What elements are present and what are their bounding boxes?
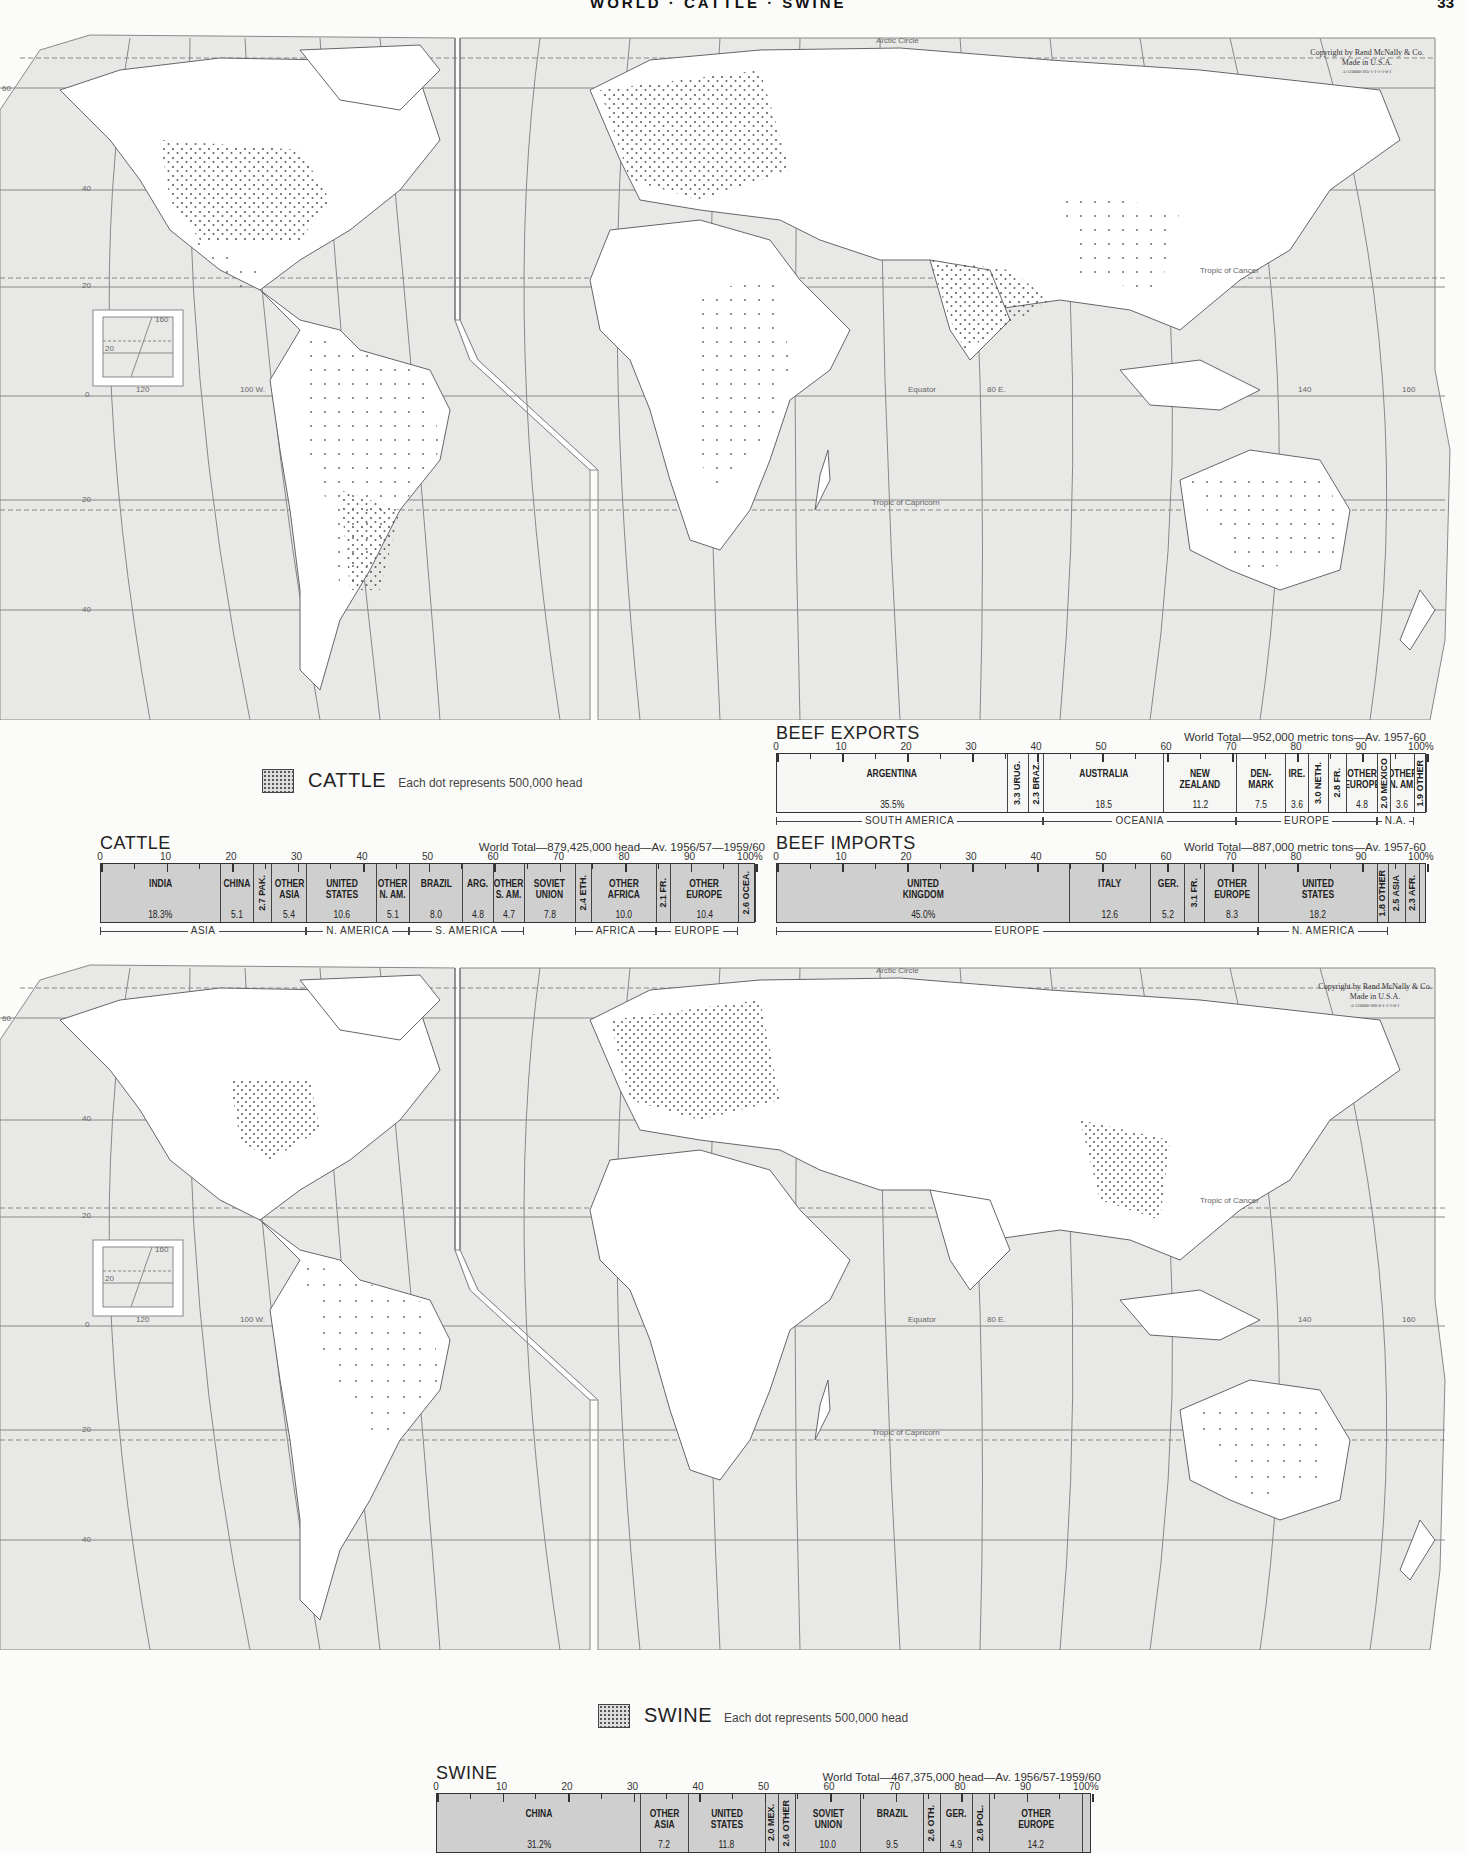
axis-tick-label: 90 (1355, 851, 1366, 862)
axis-tick-label: 0 (773, 851, 779, 862)
region-bracket: OCEANIA (1043, 815, 1236, 827)
axis-tick (699, 1794, 701, 1802)
axis-tick (765, 1794, 767, 1802)
segment-value: 12.6 (1102, 909, 1119, 920)
segment-label: OTHER N. AM. (378, 878, 408, 900)
bar-segment: 2.8 FR.2.8 (1329, 754, 1347, 812)
bar-segment: SOVIET UNION7.8 (525, 864, 576, 922)
axis-tick (1362, 754, 1364, 762)
axis-tick-label: 70 (889, 1781, 900, 1792)
region-bracket: S. AMERICA (409, 925, 524, 937)
inset-20-label: 20 (105, 344, 114, 353)
axis-tick (1135, 754, 1136, 759)
axis-tick-label: 60 (823, 1781, 834, 1792)
cattle-legend: CATTLE Each dot represents 500,000 head (262, 769, 582, 793)
segment-value: 5.4 (283, 909, 295, 920)
axis-tick-label: 50 (1095, 741, 1106, 752)
axis-tick (1395, 754, 1396, 759)
axis-tick (797, 1794, 798, 1799)
bar-segment: CHINA31.2% (437, 1794, 641, 1852)
axis-tick-label: 80 (1290, 851, 1301, 862)
axis-tick (1265, 864, 1266, 869)
lat-60-label: 60 (2, 84, 11, 93)
chart-axis: 0102030405060708090100% (100, 851, 755, 863)
axis-tick-label: 90 (1020, 1781, 1031, 1792)
segment-value: 4.9 (950, 1839, 962, 1850)
axis-tick (1037, 864, 1039, 872)
segment-value: 45.0% (911, 909, 935, 920)
bar-segment: OTHER N. AM.5.1 (377, 864, 410, 922)
segment-label: 2.4 ETH. (578, 875, 589, 911)
inset-160-label: 160 (155, 315, 168, 324)
segment-label: 2.3 AFR. (1407, 875, 1418, 911)
segment-value: 8.3 (1226, 909, 1238, 920)
segment-label: 2.5 ASIA (1391, 875, 1402, 911)
lat-40-label: 40 (82, 184, 91, 193)
axis-tick (907, 864, 909, 872)
bar-segment: 3.0 NETH.3.0 (1309, 754, 1329, 812)
axis-tick-label: 20 (561, 1781, 572, 1792)
segment-label: AUSTRALIA (1079, 768, 1128, 779)
axis-tick (527, 864, 528, 869)
segment-label: SOVIET UNION (534, 878, 565, 900)
axis-tick (437, 1794, 439, 1802)
world-map-cattle (0, 30, 1468, 720)
stacked-bar: CHINA31.2%OTHER ASIA7.2UNITED STATES11.8… (436, 1793, 1091, 1853)
segment-value: 4.8 (472, 909, 484, 920)
segment-label: OTHER N. AM. (1391, 768, 1414, 790)
region-bracket: EUROPE (1236, 815, 1377, 827)
axis-tick (429, 864, 431, 872)
segment-label: OTHER EUROPE (686, 878, 722, 900)
axis-tick (396, 864, 397, 869)
bar-segment: AUSTRALIA18.5 (1044, 754, 1164, 812)
tropic-cancer-label: Tropic of Cancer (1200, 266, 1259, 275)
segment-label: 1.9 OTHER (1415, 760, 1426, 807)
segment-value: 10.6 (333, 909, 350, 920)
dot-pattern-swatch-icon (262, 769, 294, 793)
bar-segment: OTHER S. AM.4.7 (494, 864, 525, 922)
axis-tick (199, 864, 200, 869)
copyright-notice: Copyright by Rand McNally & Co. Made in … (1282, 48, 1452, 75)
axis-tick-label: 10 (160, 851, 171, 862)
segment-value: 5.1 (387, 909, 399, 920)
axis-tick (568, 1794, 570, 1802)
axis-tick (560, 864, 562, 872)
bar-segment: OTHER N. AM.3.6 (1391, 754, 1414, 812)
region-bracket: N.A. (1377, 815, 1413, 827)
bar-segment: OTHER EUROPE8.3 (1205, 864, 1259, 922)
axis-tick (875, 754, 876, 759)
region-bracket: SOUTH AMERICA (776, 815, 1043, 827)
segment-label: OTHER EUROPE (1347, 768, 1378, 790)
axis-tick (1070, 754, 1071, 759)
tropic-capricorn-label: Tropic of Capricorn (872, 498, 940, 507)
bar-segment: OTHER EUROPE4.8 (1347, 754, 1378, 812)
axis-tick-label: 60 (1160, 851, 1171, 862)
axis-tick (810, 754, 811, 759)
bar-segment: 3.1 FR.3.1 (1185, 864, 1205, 922)
lon-160-label: 160 (1402, 385, 1415, 394)
lat-20s-label: 20 (82, 1425, 91, 1434)
axis-tick-label: 80 (618, 851, 629, 862)
region-bracket: ASIA (100, 925, 306, 937)
segment-label: OTHER ASIA (650, 1808, 680, 1830)
bar-segment: 2.1 FR.2.1 (657, 864, 671, 922)
axis-tick (232, 864, 234, 872)
lon-160-label: 160 (1402, 1315, 1415, 1324)
running-head: WORLD · CATTLE · SWINE (590, 0, 847, 11)
bar-segment: ARG.4.8 (463, 864, 494, 922)
axis-tick (972, 754, 974, 762)
region-bracket: N. AMERICA (1258, 925, 1388, 937)
bar-segment: IRE.3.6 (1286, 754, 1309, 812)
bar-segment: OTHER EUROPE10.4 (671, 864, 739, 922)
segment-label: 3.3 URUG. (1012, 761, 1023, 805)
bar-segment: 2.3 BRAZ.2.3 (1029, 754, 1044, 812)
bar-segment: CHINA5.1 (221, 864, 254, 922)
region-bracket: N. AMERICA (306, 925, 409, 937)
axis-tick (1232, 754, 1234, 762)
axis-tick (1427, 864, 1429, 872)
segment-value: 10.0 (616, 909, 633, 920)
axis-tick (1330, 754, 1331, 759)
axis-tick-label: 10 (496, 1781, 507, 1792)
lat-0-label: 0 (85, 390, 89, 399)
segment-label: DEN-MARK (1241, 768, 1282, 790)
